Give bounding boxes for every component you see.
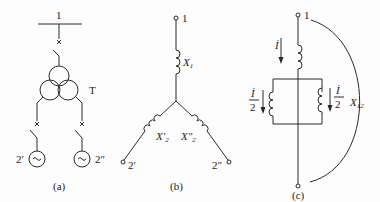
wire [176, 101, 192, 116]
terminal-icon [296, 184, 300, 188]
terminal-icon [121, 160, 125, 164]
terminal-2-prime-label: 2′ [128, 159, 136, 171]
inductor-x2-double-prime-icon [192, 115, 208, 131]
three-winding-transformer-icon [40, 66, 78, 100]
arrow-down-icon [261, 90, 266, 114]
diagram-canvas: 1 T 2′ [0, 0, 380, 202]
wire [160, 101, 176, 116]
generator-right-label: 2″ [95, 153, 105, 165]
transformer-label: T [89, 84, 96, 96]
generator-icon [29, 151, 45, 167]
inductor-x2-prime-icon [144, 115, 160, 131]
generator-left-label: 2′ [16, 153, 24, 165]
circuit-diagram: 1 T 2′ [0, 0, 380, 202]
reactance-x12-label: X12 [349, 96, 364, 110]
wire [124, 131, 145, 160]
reactance-x2-prime-label: X′2 [155, 130, 169, 144]
arrow-down-icon [328, 88, 333, 112]
right-feeder [76, 97, 82, 121]
panel-b: 1 X1 2′ X′2 2″ X″2 (b) [121, 12, 231, 193]
svg-text:2: 2 [335, 98, 341, 110]
svg-text:İ: İ [250, 87, 256, 99]
breaker-icon [57, 40, 61, 44]
inductor-left-parallel-icon [269, 92, 273, 116]
caption-b: (b) [170, 180, 183, 193]
current-total-label: İ [274, 39, 280, 51]
panel-a: 1 T 2′ [16, 9, 105, 193]
disconnect-switch-icon [30, 130, 37, 138]
disconnect-switch-icon [53, 50, 59, 56]
reactance-x1-label: X1 [182, 56, 193, 70]
inductor-x1-icon [176, 50, 180, 74]
disconnect-switch-icon [75, 130, 82, 138]
svg-text:İ: İ [335, 84, 341, 96]
reactance-x2-double-prime-label: X″2 [180, 130, 196, 144]
wire [207, 131, 228, 160]
current-half-right-label: İ 2 [334, 84, 344, 110]
terminal-1-label: 1 [182, 12, 188, 24]
terminal-icon [296, 13, 300, 17]
svg-text:2: 2 [250, 101, 256, 113]
breaker-icon [35, 122, 39, 126]
terminal-icon [174, 16, 178, 20]
terminal-icon [227, 160, 231, 164]
generator-icon [74, 151, 90, 167]
caption-c: (c) [292, 189, 305, 202]
left-feeder [37, 97, 43, 121]
inductor-series-icon [298, 45, 302, 69]
caption-a: (a) [53, 180, 66, 193]
terminal-1-label: 1 [304, 9, 310, 21]
breaker-icon [80, 122, 84, 126]
terminal-2-double-prime-label: 2″ [212, 159, 222, 171]
inductor-right-parallel-icon [318, 88, 322, 112]
busbar-label: 1 [56, 9, 62, 21]
panel-c: 1 İ İ 2 İ 2 [249, 9, 364, 202]
current-half-left-label: İ 2 [249, 87, 259, 113]
arrow-down-icon [279, 38, 284, 64]
